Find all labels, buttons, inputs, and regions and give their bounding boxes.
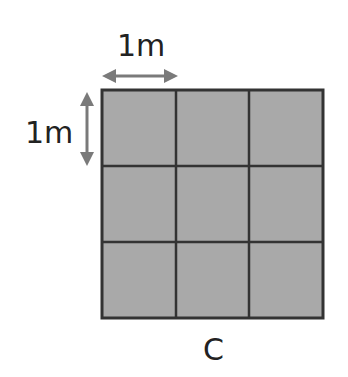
vertical-dimension-arrow: [80, 92, 94, 166]
caption-label: C: [203, 335, 224, 365]
grid-diagram: [0, 0, 348, 377]
top-dimension-label: 1m: [117, 31, 165, 61]
square-grid: [102, 90, 323, 318]
horizontal-dimension-arrow: [102, 69, 178, 83]
left-dimension-label: 1m: [25, 118, 73, 148]
